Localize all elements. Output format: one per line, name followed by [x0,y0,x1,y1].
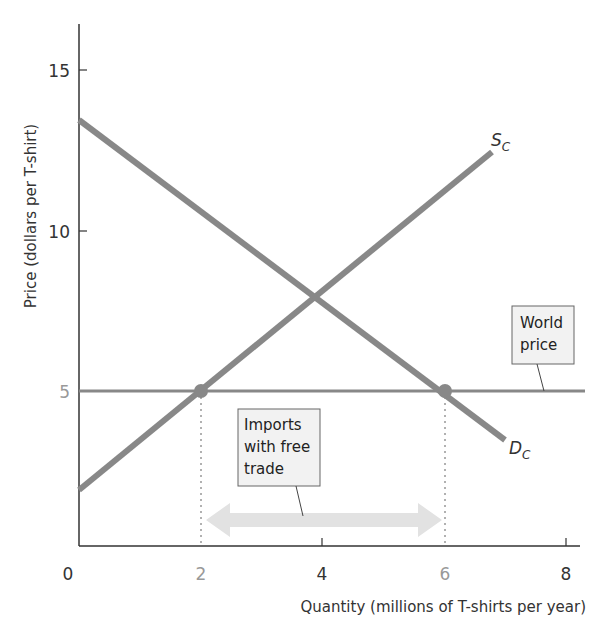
x-tick-label-2: 2 [196,564,207,584]
y-tick-label-15: 15 [48,61,70,81]
point-domestic-supply [194,384,208,398]
svg-text:with free: with free [244,438,310,456]
x-tick-label-8: 8 [561,564,572,584]
x-axis-label: Quantity (millions of T-shirts per year) [300,598,586,616]
x-tick-label-4: 4 [317,564,328,584]
point-domestic-demand [438,384,452,398]
y-tick-label-5: 5 [59,382,70,402]
svg-text:price: price [520,336,557,354]
y-axis-label: Price (dollars per T-shirt) [22,124,40,308]
svg-text:World: World [520,314,563,332]
svg-text:Imports: Imports [244,416,302,434]
x-tick-label-6: 6 [440,564,451,584]
imports-callout: Imports with free trade [238,409,320,516]
supply-label: SC [491,130,511,154]
svg-text:trade: trade [244,460,284,478]
imports-double-arrow [206,503,442,537]
demand-label: DC [509,438,531,462]
chart: 15 10 5 0 2 4 6 8 Price (dollars per T-s… [0,0,613,626]
y-tick-label-10: 10 [48,222,70,242]
world-price-callout: World price [512,306,574,391]
x-tick-label-0: 0 [63,564,74,584]
